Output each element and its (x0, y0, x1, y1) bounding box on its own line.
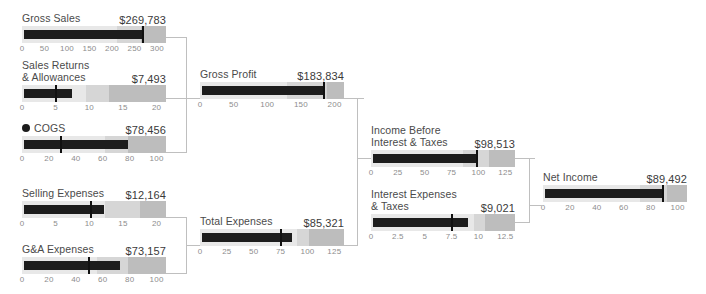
bullet-value-ga-expenses: $73,157 (126, 245, 166, 257)
link-junction-to-net-income (529, 205, 543, 206)
measure-bar (24, 140, 128, 149)
bullet-track (22, 257, 166, 274)
bullet-axis: 05101520 (22, 103, 166, 116)
bullet-axis: 05101520 (22, 219, 166, 232)
bullet-track (22, 85, 166, 102)
bullet-chart-cogs[interactable]: COGS$78,456020406080100 (22, 122, 166, 167)
target-marker (451, 214, 453, 231)
bullet-chart-gross-profit[interactable]: Gross Profit$183,834050100150200 (200, 68, 344, 113)
axis-tick-label: 200 (105, 44, 119, 53)
bullet-header: Gross Sales$269,783 (22, 12, 166, 26)
bullet-chart-canvas: Gross Sales$269,783050100150200250300Sal… (0, 0, 706, 294)
axis-tick-label: 5 (53, 103, 58, 112)
bullet-track (371, 214, 515, 231)
axis-tick-label: 125 (498, 168, 512, 177)
bullet-header: Sales Returns& Allowances$7,493 (22, 60, 166, 85)
axis-tick-label: 10 (85, 103, 94, 112)
bullet-value-interest-expenses-taxes: $9,021 (481, 202, 515, 214)
link-ga-to-total-expenses (166, 273, 186, 274)
bullet-chart-gross-sales[interactable]: Gross Sales$269,783050100150200250300 (22, 12, 166, 57)
bullet-label-cogs: COGS (22, 122, 65, 134)
link-interest-taxes-to-net-income (529, 205, 530, 223)
bullet-track (22, 201, 166, 218)
axis-tick-label: 0 (20, 275, 25, 284)
bullet-chart-selling-expenses[interactable]: Selling Expenses$12,16405101520 (22, 187, 166, 232)
bullet-chart-ga-expenses[interactable]: G&A Expenses$73,157020406080100 (22, 243, 166, 288)
link-selling-to-total-expenses (186, 217, 187, 245)
bullet-label-ga-expenses: G&A Expenses (22, 243, 94, 255)
target-marker (476, 150, 478, 167)
bullet-chart-income-before-interest-taxes[interactable]: Income BeforeInterest & Taxes$98,5130255… (371, 125, 515, 181)
axis-tick-label: 60 (98, 275, 107, 284)
bullet-label-total-expenses: Total Expenses (200, 215, 273, 227)
qualitative-band-poor (141, 26, 166, 43)
bullet-label-line: Selling Expenses (22, 187, 104, 199)
bullet-chart-interest-expenses-taxes[interactable]: Interest Expenses& Taxes$9,02102.557.510… (371, 189, 515, 245)
qualitative-band-poor (667, 185, 687, 202)
bullet-value-cogs: $78,456 (126, 124, 166, 136)
axis-tick-label: 300 (150, 44, 164, 53)
qualitative-band-poor (128, 136, 166, 153)
axis-tick-label: 2.5 (392, 232, 404, 241)
axis-tick-label: 10 (85, 219, 94, 228)
bullet-axis: 02.557.51012.5 (371, 232, 515, 245)
qualitative-band-mid (474, 214, 485, 231)
axis-tick-label: 0 (20, 44, 25, 53)
bullet-label-selling-expenses: Selling Expenses (22, 187, 104, 199)
axis-tick-label: 40 (592, 203, 601, 212)
link-sales-returns-to-gross-profit (166, 98, 186, 99)
bullet-header: Selling Expenses$12,164 (22, 187, 166, 201)
bullet-label-gross-sales: Gross Sales (22, 12, 80, 24)
qualitative-band-poor (489, 150, 515, 167)
bullet-label-line: Gross Sales (22, 12, 80, 24)
axis-tick-label: 60 (98, 154, 107, 163)
target-marker (55, 85, 57, 102)
bullet-axis: 020406080100 (22, 154, 166, 167)
axis-tick-label: 200 (328, 100, 342, 109)
axis-tick-label: 0 (20, 219, 25, 228)
measure-bar (24, 89, 72, 98)
axis-tick-label: 20 (44, 275, 53, 284)
link-gross-sales-to-gross-profit (186, 37, 187, 98)
bullet-label-gross-profit: Gross Profit (200, 68, 257, 80)
bullet-label-line: & Taxes (371, 200, 409, 212)
axis-tick-label: 40 (71, 154, 80, 163)
bullet-value-income-before-interest-taxes: $98,513 (475, 138, 515, 150)
link-ibit-to-net-income (529, 158, 530, 205)
axis-tick-label: 0 (198, 100, 203, 109)
axis-tick-label: 15 (118, 103, 127, 112)
link-junction-to-ibit (357, 158, 371, 159)
link-ga-to-total-expenses (186, 245, 187, 274)
bullet-chart-sales-returns-allowances[interactable]: Sales Returns& Allowances$7,49305101520 (22, 60, 166, 116)
target-marker (280, 229, 282, 246)
bullet-chart-net-income[interactable]: Net Income$89,492020406080100 (543, 171, 687, 216)
bullet-header: Net Income$89,492 (543, 171, 687, 185)
qualitative-band-mid (105, 201, 140, 218)
bullet-track (200, 229, 344, 246)
bullet-axis: 0255075100125 (371, 168, 515, 181)
bullet-label-line: Interest & Taxes (371, 136, 448, 148)
qualitative-band-poor (327, 82, 344, 99)
bullet-chart-total-expenses[interactable]: Total Expenses$85,3210255075100125 (200, 215, 344, 260)
bullet-header: COGS$78,456 (22, 122, 166, 136)
qualitative-band-poor (128, 257, 166, 274)
measure-bar (24, 261, 120, 270)
qualitative-band-mid (297, 229, 309, 246)
bullet-track (22, 26, 166, 43)
bullet-value-sales-returns-allowances: $7,493 (132, 73, 166, 85)
target-marker (323, 82, 325, 99)
axis-tick-label: 100 (300, 247, 314, 256)
measure-bar (202, 86, 324, 95)
bullet-value-total-expenses: $85,321 (304, 217, 344, 229)
bullet-axis: 0255075100125 (200, 247, 344, 260)
axis-tick-label: 25 (393, 168, 402, 177)
axis-tick-label: 25 (222, 247, 231, 256)
axis-tick-label: 15 (118, 219, 127, 228)
axis-tick-label: 60 (619, 203, 628, 212)
axis-tick-label: 100 (150, 275, 164, 284)
bullet-value-selling-expenses: $12,164 (126, 189, 166, 201)
axis-tick-label: 80 (646, 203, 655, 212)
axis-tick-label: 0 (198, 247, 203, 256)
bullet-header: Income BeforeInterest & Taxes$98,513 (371, 125, 515, 150)
axis-tick-label: 20 (44, 154, 53, 163)
